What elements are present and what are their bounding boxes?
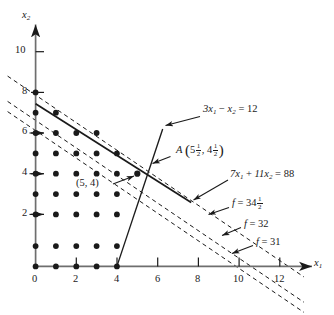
y-tick-label-10: 10 — [15, 45, 26, 56]
lattice-point — [73, 171, 79, 177]
y-tick-label-6: 6 — [22, 126, 27, 137]
x-tick-label-10: 10 — [233, 274, 244, 285]
lattice-point — [114, 243, 120, 249]
leader-arrow-level-f-34-half — [209, 208, 230, 215]
lattice-point — [33, 243, 39, 249]
lattice-point — [114, 171, 120, 177]
lattice-point — [53, 191, 59, 197]
lattice-point — [94, 212, 100, 218]
lattice-point — [73, 264, 79, 270]
lattice-point — [114, 191, 120, 197]
lattice-point — [114, 264, 120, 270]
lattice-point — [33, 151, 39, 157]
lattice-point — [73, 151, 79, 157]
lattice-point — [114, 151, 120, 157]
lattice-point — [53, 151, 59, 157]
constraint-line-7x1-plus-11x2 — [36, 104, 192, 203]
x-tick-label-0: 0 — [32, 274, 37, 285]
lattice-point — [94, 264, 100, 270]
figure-container: x2 x1 10 8 6 4 2 0 2 4 6 8 10 12 3x1 − x… — [0, 0, 334, 315]
lattice-point — [73, 130, 79, 136]
lattice-point-5-4 — [134, 171, 140, 177]
y-tick-label-8: 8 — [22, 86, 27, 97]
lattice-point — [33, 212, 39, 218]
lattice-point — [53, 212, 59, 218]
lattice-point — [33, 191, 39, 197]
lattice-point — [114, 212, 120, 218]
lattice-point — [33, 90, 39, 96]
y-axis-label: x2 — [22, 10, 30, 21]
lattice-point — [94, 243, 100, 249]
leader-arrow-constraint-2 — [194, 180, 229, 200]
lattice-point — [94, 191, 100, 197]
level-label-f-32: f = 32 — [244, 219, 269, 230]
leader-arrow-level-f-32 — [222, 228, 241, 236]
lattice-point — [33, 171, 39, 177]
x-tick-label-8: 8 — [195, 274, 200, 285]
x-tick-label-2: 2 — [73, 274, 78, 285]
lattice-point — [53, 264, 59, 270]
lattice-point — [33, 264, 39, 270]
lattice-point — [53, 110, 59, 116]
lattice-point — [94, 130, 100, 136]
level-label-f-31: f = 31 — [256, 237, 281, 248]
x-axis-label: x1 — [314, 258, 322, 269]
vertex-a-label: A (512, 412) — [176, 143, 224, 159]
lattice-point — [94, 171, 100, 177]
x-tick-label-6: 6 — [155, 274, 160, 285]
y-tick-label-2: 2 — [22, 208, 27, 219]
constraint-line-3x1-minus-x2 — [117, 129, 163, 266]
diagram-canvas — [0, 0, 334, 315]
lattice-point — [33, 110, 39, 116]
lattice-point — [94, 151, 100, 157]
lattice-point — [33, 130, 39, 136]
level-label-f-34-half: f = 3412 — [232, 196, 263, 212]
lattice-point — [53, 243, 59, 249]
lattice-point — [73, 212, 79, 218]
y-tick-label-4: 4 — [22, 167, 27, 178]
lattice-point — [73, 243, 79, 249]
lattice-point — [53, 130, 59, 136]
x-tick-label-12: 12 — [274, 274, 285, 285]
constraint-2-label: 7x1 + 11x2 = 88 — [230, 169, 294, 180]
x-tick-label-4: 4 — [114, 274, 119, 285]
constraint-1-label: 3x1 − x2 = 12 — [203, 104, 257, 115]
leader-arrow-level-f-31 — [232, 246, 253, 254]
leader-arrow-constraint-1 — [166, 117, 201, 126]
leader-arrow-lattice-5-4 — [113, 176, 134, 184]
lattice-point — [73, 191, 79, 197]
leader-arrow-vertex-a — [153, 157, 171, 164]
lattice-point-5-4-label: (5, 4) — [76, 178, 99, 189]
lattice-point — [53, 171, 59, 177]
